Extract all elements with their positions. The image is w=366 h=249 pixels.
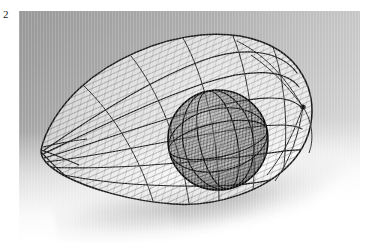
rib-lines [43,52,302,186]
scan-striping-overlay [19,11,360,243]
outer-shell [19,11,360,243]
right-pole-node [237,41,312,181]
figure-number-label: 2 [3,8,9,20]
sphere-outline [168,90,268,190]
hoop-lines [83,36,286,203]
shell-outline [41,34,312,204]
cast-shadow-secondary [165,138,360,243]
wire-mesh-sculpture [19,11,360,243]
photograph-plate [19,11,360,243]
inner-sphere [159,81,279,201]
cast-shadow [52,162,347,243]
sphere-meridians [163,84,274,196]
pointed-tip [41,139,87,177]
